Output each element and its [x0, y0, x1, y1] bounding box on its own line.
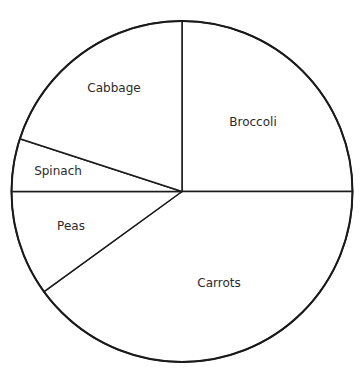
- pie-slices: [11, 21, 352, 362]
- label-cabbage: Cabbage: [87, 81, 140, 95]
- label-spinach: Spinach: [34, 164, 82, 178]
- label-peas: Peas: [57, 219, 85, 233]
- slice-broccoli: [182, 21, 353, 192]
- label-carrots: Carrots: [197, 276, 240, 290]
- pie-chart: Cabbage Broccoli Spinach Peas Carrots: [0, 0, 361, 375]
- label-broccoli: Broccoli: [229, 115, 276, 129]
